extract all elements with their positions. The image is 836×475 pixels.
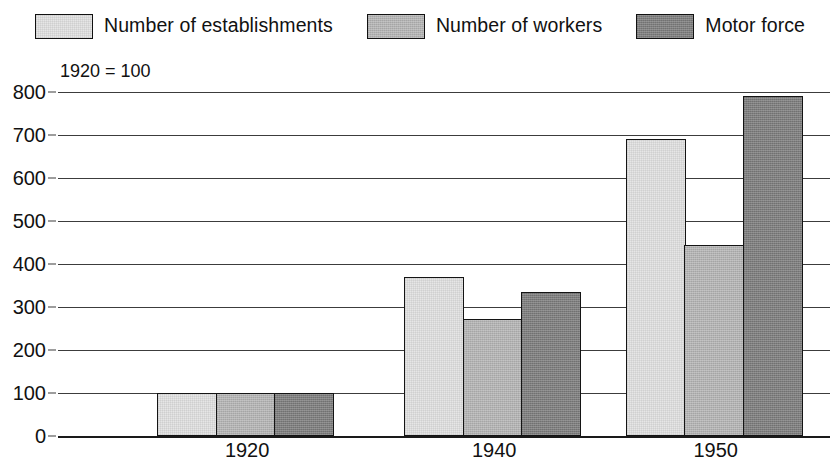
y-tick-label: 500 xyxy=(13,211,46,231)
y-tick-mark xyxy=(48,436,56,437)
legend-swatch-icon-workers xyxy=(367,14,425,39)
chart-legend: Number of establishments Number of worke… xyxy=(0,0,836,52)
y-tick-mark xyxy=(48,350,56,351)
y-tick-label: 100 xyxy=(13,383,46,403)
y-tick-label: 300 xyxy=(13,297,46,317)
legend-item-establishments: Number of establishments xyxy=(35,14,333,39)
bar[interactable] xyxy=(216,393,276,436)
bar[interactable] xyxy=(157,393,217,436)
bar[interactable] xyxy=(743,96,803,436)
x-tick-label: 1920 xyxy=(225,440,270,460)
legend-label-motor-force: Motor force xyxy=(705,16,805,36)
y-tick-label: 200 xyxy=(13,340,46,360)
chart-annotation: 1920 = 100 xyxy=(60,62,151,80)
legend-swatch-icon-motor-force xyxy=(636,14,694,39)
axis-baseline xyxy=(58,436,830,438)
bar[interactable] xyxy=(521,292,581,436)
x-axis-ticks: 192019401950 xyxy=(58,440,830,472)
y-tick-label: 700 xyxy=(13,125,46,145)
y-tick-mark xyxy=(48,92,56,93)
y-tick-label: 600 xyxy=(13,168,46,188)
x-tick-label: 1940 xyxy=(472,440,517,460)
y-tick-mark xyxy=(48,221,56,222)
bar[interactable] xyxy=(684,245,744,436)
legend-item-motor-force: Motor force xyxy=(636,14,805,39)
y-tick-label: 400 xyxy=(13,254,46,274)
bars-layer xyxy=(58,92,830,436)
y-tick-mark xyxy=(48,135,56,136)
bar[interactable] xyxy=(404,277,464,436)
y-tick-label: 0 xyxy=(35,426,46,446)
bar[interactable] xyxy=(463,319,523,436)
y-tick-mark xyxy=(48,307,56,308)
legend-swatch-icon-establishments xyxy=(35,14,93,39)
bar[interactable] xyxy=(274,393,334,436)
legend-label-workers: Number of workers xyxy=(436,16,602,36)
y-tick-mark xyxy=(48,178,56,179)
legend-label-establishments: Number of establishments xyxy=(104,16,333,36)
bar-group xyxy=(404,92,584,436)
bar-group xyxy=(157,92,337,436)
y-tick-mark xyxy=(48,264,56,265)
bar-group xyxy=(626,92,806,436)
legend-item-workers: Number of workers xyxy=(367,14,602,39)
x-tick-label: 1950 xyxy=(693,440,738,460)
plot-area: 8007006005004003002001000 xyxy=(58,92,830,436)
bar[interactable] xyxy=(626,139,686,436)
y-tick-mark xyxy=(48,393,56,394)
bar-chart: Number of establishments Number of worke… xyxy=(0,0,836,475)
y-tick-label: 800 xyxy=(13,82,46,102)
